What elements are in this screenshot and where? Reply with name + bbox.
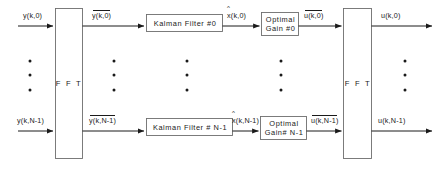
block-outlines	[56, 9, 372, 159]
block-diagram: F F T F F T Kalman Filter #0 Kalman Filt…	[0, 0, 448, 180]
signal-text: x(k,0)	[227, 11, 246, 20]
kalman-0-label: Kalman Filter #0	[147, 19, 223, 28]
overbar-mark	[93, 10, 110, 11]
signal-text: y(k,N-1)	[89, 116, 116, 125]
ellipsis-dot	[404, 74, 407, 77]
ellipsis-dot	[29, 60, 32, 63]
kalman-n-label: Kalman Filter # N-1	[147, 123, 233, 132]
overbar-group: y(k,0)	[92, 11, 111, 20]
signal-label-gain-out-n: u(k,N-1)	[311, 116, 339, 125]
diagram-canvas	[0, 0, 448, 180]
gain-n-label-line2: Gain# N-1	[261, 128, 307, 137]
hat-group: ^x(k,N-1)	[232, 116, 259, 125]
overbar-mark	[90, 115, 115, 116]
ellipsis-dot	[186, 89, 189, 92]
overbar-mark	[305, 10, 323, 11]
ellipsis-dot	[113, 74, 116, 77]
ellipsis-dot	[29, 89, 32, 92]
signal-text: x(k,N-1)	[232, 116, 259, 125]
overbar-mark	[312, 115, 338, 116]
signal-label-input-0: y(k,0)	[23, 11, 42, 20]
signal-label-output-0: u(k,0)	[381, 11, 401, 20]
signal-text: u(k,0)	[304, 11, 324, 20]
gain-0-label-line2: Gain #0	[262, 24, 299, 33]
signal-label-gain-out-0: u(k,0)	[304, 11, 324, 20]
ellipsis-dot	[280, 89, 283, 92]
signal-label-input-n: y(k,N-1)	[17, 116, 44, 125]
hat-mark: ^	[232, 110, 235, 116]
ellipsis-dot	[404, 60, 407, 63]
ellipsis-dot	[404, 89, 407, 92]
ellipsis-dot	[186, 74, 189, 77]
ellipsis-dot	[280, 74, 283, 77]
ellipsis-dot	[29, 74, 32, 77]
signal-label-estimate-n: ^x(k,N-1)	[232, 116, 259, 125]
signal-label-output-n: u(k,N-1)	[378, 116, 406, 125]
fft-output-label: F F T	[344, 79, 372, 88]
overbar-group: y(k,N-1)	[89, 116, 116, 125]
ellipsis-dot	[280, 60, 283, 63]
ellipsis-dot	[186, 60, 189, 63]
signal-label-fft-out-n: y(k,N-1)	[89, 116, 116, 125]
signal-text: u(k,N-1)	[311, 116, 339, 125]
ellipsis-dot	[113, 60, 116, 63]
hat-mark: ^	[227, 5, 230, 11]
gain-0-label-line1: Optimal	[262, 15, 299, 24]
fft-input-label: F F T	[55, 79, 83, 88]
ellipsis-dot	[113, 89, 116, 92]
signal-label-fft-out-0: y(k,0)	[92, 11, 111, 20]
gain-n-label-line1: Optimal	[261, 119, 307, 128]
signal-label-estimate-0: ^x(k,0)	[227, 11, 246, 20]
signal-text: y(k,0)	[92, 11, 111, 20]
hat-group: ^x(k,0)	[227, 11, 246, 20]
overbar-group: u(k,0)	[304, 11, 324, 20]
overbar-group: u(k,N-1)	[311, 116, 339, 125]
